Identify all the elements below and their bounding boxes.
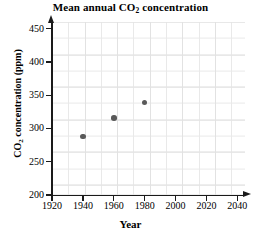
y-axis-title-text-before: CO [12, 143, 23, 158]
data-point[interactable] [111, 115, 117, 121]
y-axis-tick [46, 61, 51, 62]
y-axis-line [51, 22, 53, 196]
x-axis-arrow-icon [243, 191, 251, 197]
data-point[interactable] [80, 134, 86, 140]
chart-figure: Mean annual CO2 concentration 200 250 30… [0, 0, 261, 237]
chart-title: Mean annual CO2 concentration [0, 1, 261, 13]
y-axis-tick [46, 28, 51, 29]
x-axis-line [51, 195, 244, 197]
y-axis-tick [46, 161, 51, 162]
y-axis-title: CO2 concentration (ppm) [12, 19, 23, 189]
y-axis-title-text-after: concentration (ppm) [12, 49, 23, 139]
y-axis-arrow-icon [48, 15, 54, 23]
y-axis-title-subscript: 2 [17, 139, 25, 143]
y-axis-tick [46, 194, 51, 195]
chart-title-text-before: Mean annual CO [53, 1, 136, 13]
y-axis-tick-label: 200 [14, 190, 44, 200]
x-axis-tick-label: 2040 [217, 201, 257, 211]
plot-area [52, 22, 245, 195]
y-axis-tick [46, 128, 51, 129]
chart-title-text-after: concentration [139, 1, 208, 13]
x-axis-title: Year [0, 218, 261, 230]
major-gridlines [52, 22, 245, 195]
y-axis-tick [46, 95, 51, 96]
chart-title-subscript: 2 [135, 6, 139, 15]
